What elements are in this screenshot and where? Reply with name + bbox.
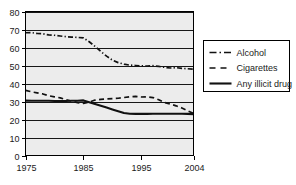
x-axis-tick-label: 2004 <box>184 163 204 173</box>
chart-legend: AlcoholCigarettesAny illicit drug <box>204 41 293 92</box>
chart-canvas: 01020304050607080 1975198519952004 Alcoh… <box>0 0 296 185</box>
y-axis-tick-label: 10 <box>9 134 19 144</box>
y-axis-tick-label: 50 <box>9 62 19 72</box>
line-chart: 01020304050607080 1975198519952004 Alcoh… <box>0 0 296 185</box>
y-axis-tick-label: 70 <box>9 26 19 36</box>
y-axis-tick-label: 0 <box>14 152 19 162</box>
y-axis-tick-label: 60 <box>9 44 19 54</box>
x-axis-tick-label: 1975 <box>16 163 36 173</box>
y-axis-tick-label: 30 <box>9 98 19 108</box>
legend-label-cigarettes: Cigarettes <box>237 63 279 73</box>
x-axis-tick-label: 1995 <box>131 163 151 173</box>
plot-area <box>26 12 194 156</box>
y-axis-tick-label: 20 <box>9 116 19 126</box>
y-axis-tick-label: 80 <box>9 8 19 18</box>
y-axis-tick-label: 40 <box>9 80 19 90</box>
y-axis: 01020304050607080 <box>9 8 25 162</box>
legend-label-any-illicit-drug: Any illicit drug <box>237 79 293 89</box>
plot-background <box>26 12 194 156</box>
legend-label-alcohol: Alcohol <box>237 48 267 58</box>
x-axis-tick-label: 1985 <box>73 163 93 173</box>
